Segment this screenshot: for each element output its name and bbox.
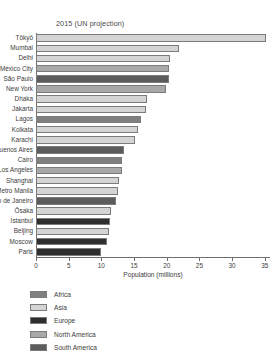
bar-row: Karachi	[36, 135, 270, 145]
bar-category-label: Delhi	[18, 53, 33, 63]
bar-row: Los Angeles	[36, 165, 270, 175]
bar-category-label: México City	[0, 64, 33, 74]
legend-swatch-icon	[30, 344, 47, 351]
bar	[36, 218, 110, 225]
bar	[36, 136, 135, 143]
bar-category-label: Kolkata	[12, 125, 33, 135]
bar	[36, 157, 122, 164]
bar	[36, 228, 109, 235]
x-axis-tick	[232, 257, 233, 261]
x-axis-tick-label: 5	[67, 262, 71, 269]
bar-row: Cairo	[36, 155, 270, 165]
bar	[36, 177, 119, 184]
legend-swatch-icon	[30, 304, 47, 311]
bar-category-label: Cairo	[18, 155, 33, 165]
legend-label: Asia	[54, 304, 67, 311]
bar-row: Dhaka	[36, 94, 270, 104]
bar	[36, 45, 179, 52]
bar-category-label: Rio de Janeiro	[0, 196, 33, 206]
x-axis-line	[36, 257, 270, 258]
x-axis-tick	[199, 257, 200, 261]
legend-label: North America	[54, 331, 96, 338]
legend-swatch-icon	[30, 291, 47, 298]
bar-category-label: Beijing	[14, 226, 33, 236]
x-axis-tick	[69, 257, 70, 261]
legend-label: Africa	[54, 291, 71, 298]
legend-label: South America	[54, 344, 97, 351]
population-bar-chart: 2015 (UN projection) TōkyōMumbaiDelhiMéx…	[0, 0, 274, 359]
bar-category-label: Los Angeles	[0, 165, 33, 175]
bar	[36, 95, 147, 102]
bar	[36, 85, 166, 92]
bar-row: Delhi	[36, 53, 270, 63]
chart-legend: AfricaAsiaEuropeNorth AmericaSouth Ameri…	[30, 288, 97, 354]
bar-row: Paris	[36, 247, 270, 257]
bar-row: Kolkata	[36, 125, 270, 135]
bar-category-label: São Paulo	[4, 74, 34, 84]
bar-row: Mumbai	[36, 43, 270, 53]
bar	[36, 197, 116, 204]
bar	[36, 126, 138, 133]
x-axis-tick-label: 35	[261, 262, 268, 269]
bar	[36, 34, 266, 41]
bar	[36, 207, 111, 214]
bar	[36, 238, 107, 245]
bar-category-label: Karachi	[11, 135, 33, 145]
bar-category-label: Mumbai	[10, 43, 33, 53]
bar-row: Rio de Janeiro	[36, 196, 270, 206]
x-axis-tick-label: 20	[163, 262, 170, 269]
plot-area: TōkyōMumbaiDelhiMéxico CitySão PauloNew …	[36, 33, 270, 257]
legend-item: Europe	[30, 314, 97, 327]
bar-row: Tōkyō	[36, 33, 270, 43]
bar-row: İstanbul	[36, 216, 270, 226]
x-axis-tick	[36, 257, 37, 261]
bar-category-label: New York	[6, 84, 33, 94]
legend-item: Africa	[30, 288, 97, 301]
bar-row: Moscow	[36, 237, 270, 247]
legend-item: North America	[30, 328, 97, 341]
bar	[36, 248, 101, 255]
x-axis-tick	[265, 257, 266, 261]
legend-swatch-icon	[30, 331, 47, 338]
x-axis-tick	[101, 257, 102, 261]
bar	[36, 167, 122, 174]
bar-category-label: Paris	[18, 247, 33, 257]
bar-category-label: Moscow	[10, 237, 33, 247]
bar	[36, 55, 170, 62]
bar-row: Metro Manila	[36, 186, 270, 196]
bar	[36, 65, 169, 72]
bar-row: Beijing	[36, 226, 270, 236]
bar-row: Ōsaka	[36, 206, 270, 216]
bar-row: Jakarta	[36, 104, 270, 114]
bar-category-label: Dhaka	[15, 94, 33, 104]
bar-row: Buenos Aires	[36, 145, 270, 155]
bar	[36, 106, 146, 113]
legend-item: South America	[30, 341, 97, 354]
legend-label: Europe	[54, 317, 75, 324]
bar-category-label: Buenos Aires	[0, 145, 33, 155]
x-axis-title: Population (millions)	[36, 271, 270, 278]
legend-item: Asia	[30, 301, 97, 314]
x-axis-tick	[134, 257, 135, 261]
x-axis-tick-label: 0	[34, 262, 38, 269]
bar-category-label: Ōsaka	[15, 206, 33, 216]
bar	[36, 116, 141, 123]
x-axis-tick-label: 10	[98, 262, 105, 269]
bar-row: Shanghai	[36, 176, 270, 186]
bar-row: México City	[36, 64, 270, 74]
x-axis-tick-label: 15	[130, 262, 137, 269]
bar	[36, 75, 169, 82]
x-axis-tick	[167, 257, 168, 261]
bar-category-label: İstanbul	[11, 216, 33, 226]
x-axis-tick-label: 30	[229, 262, 236, 269]
legend-swatch-icon	[30, 317, 47, 324]
bar	[36, 146, 124, 153]
bar-category-label: Tōkyō	[16, 33, 33, 43]
bar	[36, 187, 118, 194]
bar-category-label: Metro Manila	[0, 186, 33, 196]
bar-row: São Paulo	[36, 74, 270, 84]
bar-category-label: Lagos	[16, 114, 33, 124]
bar-row: Lagos	[36, 114, 270, 124]
bar-category-label: Jakarta	[12, 104, 33, 114]
x-axis-tick-label: 25	[196, 262, 203, 269]
